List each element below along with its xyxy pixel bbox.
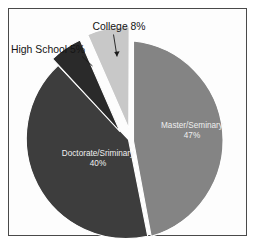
high-school-callout-label: High School 5% [11, 44, 85, 55]
doctorate-seminary-label-line2: 40% [90, 159, 106, 168]
pie-slice-master-seminary-path[interactable] [134, 41, 224, 236]
pie-chart-canvas: Master/Seminary 47% Doctorate/Sriminary … [0, 0, 257, 246]
master-seminary-label-line2: 47% [184, 131, 200, 140]
pie-chart-figure: Master/Seminary 47% Doctorate/Sriminary … [0, 0, 257, 246]
pie-slice-master-seminary[interactable] [134, 41, 224, 236]
college-callout-label: College 8% [92, 21, 145, 32]
master-seminary-label-line1: Master/Seminary [161, 121, 224, 130]
doctorate-seminary-label-line1: Doctorate/Sriminary [62, 149, 135, 158]
